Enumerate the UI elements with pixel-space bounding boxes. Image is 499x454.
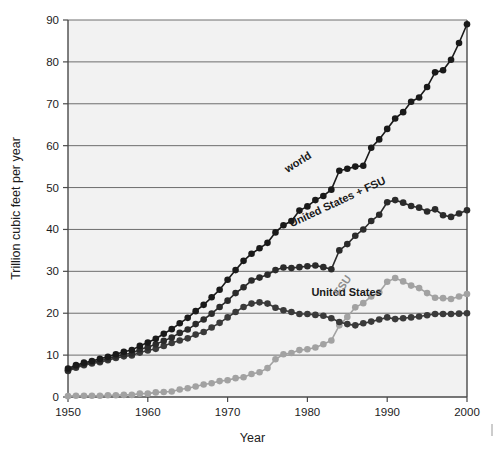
data-point-marker [400,109,407,116]
data-point-marker [208,294,215,301]
data-point-marker [280,351,287,358]
data-point-marker [152,335,159,342]
data-point-marker [200,316,207,323]
gas-production-line-chart: 0102030405060708090195019601970198019902… [0,0,499,454]
data-point-marker [192,308,199,315]
data-point-marker [256,299,263,306]
data-point-marker [464,291,471,298]
data-point-marker [264,365,271,372]
plot-area-background [68,20,467,397]
data-point-marker [456,310,463,317]
data-point-marker [456,210,463,217]
data-point-marker [272,267,279,274]
data-point-marker [176,337,183,344]
y-axis-tick-label: 70 [46,98,59,110]
data-point-marker [81,359,88,366]
data-point-marker [216,304,223,311]
data-point-marker [145,390,152,397]
data-point-marker [392,115,399,122]
data-point-marker [392,275,399,282]
data-point-marker [216,320,223,327]
data-point-marker [320,312,327,319]
data-point-marker [184,315,191,322]
data-point-marker [240,258,247,265]
y-axis-tick-label: 60 [46,140,59,152]
data-point-marker [328,186,335,193]
data-point-marker [256,274,263,281]
data-point-marker [160,330,167,337]
data-point-marker [113,392,120,399]
data-point-marker [192,383,199,390]
data-point-marker [280,222,287,229]
data-point-marker [336,319,343,326]
data-point-marker [440,67,447,74]
data-point-marker [376,136,383,143]
data-point-marker [200,329,207,336]
data-point-marker [376,211,383,218]
y-axis-tick-label: 0 [53,391,59,403]
data-point-marker [304,263,311,270]
data-point-marker [344,165,351,172]
data-point-marker [288,309,295,316]
data-point-marker [248,250,255,257]
data-point-marker [312,262,319,269]
data-point-marker [264,240,271,247]
data-point-marker [272,304,279,311]
data-point-marker [176,386,183,393]
y-axis-tick-label: 90 [46,14,59,26]
data-point-marker [264,271,271,278]
data-point-marker [280,264,287,271]
data-point-marker [184,335,191,342]
data-point-marker [121,348,128,355]
data-point-marker [328,266,335,273]
data-point-marker [121,392,128,399]
data-point-marker [272,356,279,363]
data-point-marker [320,341,327,348]
data-point-marker [81,392,88,399]
data-point-marker [296,264,303,271]
data-point-marker [176,330,183,337]
data-point-marker [344,241,351,248]
y-axis-tick-label: 50 [46,182,59,194]
data-point-marker [192,331,199,338]
y-axis-title: Trillion cubic feet per year [9,137,23,280]
y-axis-tick-label: 40 [46,223,59,235]
data-point-marker [232,290,239,297]
data-point-marker [408,98,415,105]
data-point-marker [456,293,463,300]
data-point-marker [240,304,247,311]
y-axis-tick-label: 20 [46,307,59,319]
data-point-marker [168,388,175,395]
data-point-marker [280,307,287,314]
data-point-marker [336,247,343,254]
data-point-marker [224,377,231,384]
data-point-marker [448,311,455,318]
data-point-marker [113,351,120,358]
data-point-marker [97,356,104,363]
data-point-marker [440,311,447,318]
data-point-marker [256,245,263,252]
data-point-marker [224,297,231,304]
data-point-marker [73,362,80,369]
data-point-marker [65,365,72,372]
data-point-marker [408,203,415,210]
y-axis-tick-label: 80 [46,56,59,68]
chart-canvas: 0102030405060708090195019601970198019902… [0,0,499,454]
data-point-marker [296,347,303,354]
data-point-marker [408,282,415,289]
data-point-marker [464,21,471,28]
data-point-marker [89,358,96,365]
data-point-marker [304,311,311,318]
data-point-marker [424,290,431,297]
x-axis-tick-label: 1960 [135,406,161,418]
data-point-marker [312,197,319,204]
data-point-marker [384,279,391,286]
x-axis-tick-label: 1990 [374,406,400,418]
data-point-marker [432,311,439,318]
data-point-marker [97,392,104,399]
data-point-marker [352,163,359,170]
data-point-marker [360,162,367,169]
data-point-marker [456,40,463,47]
data-point-marker [352,304,359,311]
data-point-marker [416,94,423,101]
